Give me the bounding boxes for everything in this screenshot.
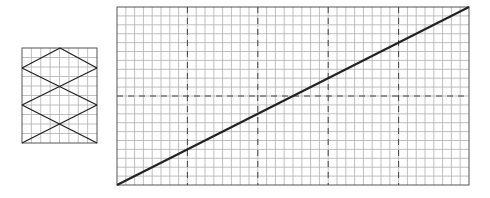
large-grid-panel bbox=[117, 7, 469, 185]
grid-diagram bbox=[0, 0, 490, 198]
small-grid-panel bbox=[22, 48, 97, 143]
